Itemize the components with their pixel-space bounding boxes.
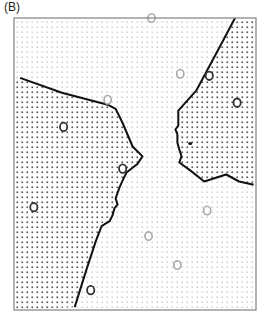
dark-class-point — [234, 98, 241, 106]
gray-class-point — [145, 232, 152, 240]
gray-class-point — [104, 96, 111, 104]
dark-class-point — [60, 123, 67, 131]
dark-class-point — [30, 203, 37, 211]
gray-class-point — [204, 206, 211, 214]
gray-class-point — [174, 261, 181, 269]
dark-class-point — [119, 164, 126, 172]
gray-class-point — [177, 70, 184, 78]
decision-boundary-diagram — [0, 0, 267, 322]
dark-class-point — [206, 72, 213, 80]
mark-point — [188, 142, 192, 145]
dark-class-point — [87, 286, 94, 294]
